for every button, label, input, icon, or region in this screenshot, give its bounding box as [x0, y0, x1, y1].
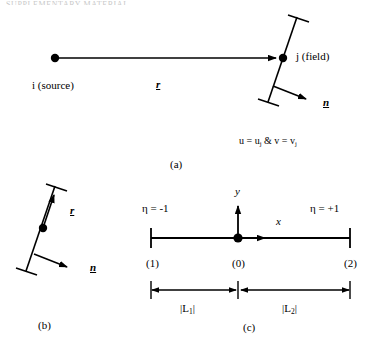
panel-c-center-node-dot [233, 233, 242, 242]
panel-c-y-axis-label: y [235, 186, 240, 197]
panel-c-node-1-label: (1) [146, 258, 159, 269]
panel-a-element-end-cap-top [288, 15, 309, 22]
velocity-v-subscript: j [295, 140, 297, 147]
velocity-mid-part: & v = v [262, 135, 295, 146]
panel-c-node-0-label: (0) [232, 258, 245, 269]
panel-a-normal-vector-arrow [273, 86, 306, 99]
panel-a-r-vector-label: r [156, 79, 160, 90]
panel-b-caption: (b) [38, 320, 51, 331]
panel-b-normal-vector-label: n [90, 262, 96, 273]
panel-a-graphics [51, 15, 309, 106]
panel-c-caption: (c) [243, 322, 255, 333]
L2-prefix: |L [282, 302, 291, 314]
panel-a-field-node-dot [279, 54, 287, 62]
figure-container: SUPPLEMENTARY MATERIAL [0, 0, 369, 345]
panel-c-x-axis-label: x [276, 216, 281, 227]
L1-prefix: |L [180, 302, 189, 314]
L1-suffix: | [193, 302, 195, 314]
panel-a-source-label: i (source) [32, 80, 74, 91]
panel-c-length-L2-label: |L2| [282, 303, 297, 315]
panel-b-graphics [16, 184, 67, 275]
panel-a-normal-vector-label: n [323, 97, 329, 108]
panel-a-caption: (a) [170, 159, 182, 170]
L2-suffix: | [295, 302, 297, 314]
panel-b-normal-vector-arrow [34, 254, 67, 267]
panel-b-node-dot [39, 224, 47, 232]
panel-c-graphics [151, 206, 350, 299]
panel-c-eta-right-label: η = +1 [310, 203, 339, 214]
panel-b-element-end-cap-top [46, 184, 67, 191]
panel-c-node-2-label: (2) [344, 258, 357, 269]
panel-b-r-vector-arrow [43, 195, 54, 228]
panel-a-field-label: j (field) [296, 51, 329, 62]
panel-a-velocity-condition-label: u = uj & v = vj [239, 136, 297, 147]
velocity-u-part: u = u [239, 135, 260, 146]
panel-b-r-vector-label: r [70, 205, 74, 216]
panel-a-source-node-dot [51, 54, 59, 62]
panel-c-length-L1-label: |L1| [180, 303, 195, 315]
panel-c-eta-left-label: η = -1 [142, 203, 169, 214]
